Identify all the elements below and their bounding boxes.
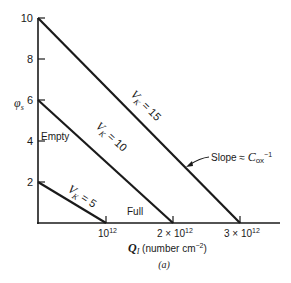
y-tick-label-2: 2	[27, 176, 33, 188]
label-vk-10: VK = 10	[92, 119, 131, 156]
x-tick-label-2e12: 2 × 1012	[157, 227, 193, 239]
x-tick-label-1e12: 1012	[98, 227, 117, 239]
y-tick-label-10: 10	[21, 12, 33, 24]
annotation-empty: Empty	[41, 131, 69, 142]
label-vk-15: VK = 15	[126, 87, 164, 125]
y-tick-label-6: 6	[27, 94, 33, 106]
y-tick-label-4: 4	[27, 135, 33, 147]
y-tick-label-8: 8	[27, 53, 33, 65]
x-axis-label: QI (number cm−2)	[128, 241, 207, 256]
annotation-slope: Slope ≈ Cox−1	[211, 150, 272, 165]
chart-canvas: 10 8 6 4 2 φs VK = 5 VK = 10 VK = 15 Emp…	[0, 0, 291, 283]
x-tick-label-3e12: 3 × 1012	[224, 227, 260, 239]
y-axis-label: φs	[14, 96, 24, 112]
arrow-head-icon	[186, 161, 193, 167]
annotation-full: Full	[127, 206, 143, 217]
figure-caption: (a)	[158, 259, 170, 271]
